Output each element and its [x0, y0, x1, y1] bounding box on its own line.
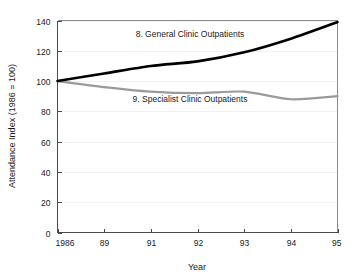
y-tick-label-100: 100 [36, 77, 50, 87]
x-tick-label-95: 95 [332, 238, 342, 248]
x-tick-label-92: 92 [194, 238, 204, 248]
chart-background [0, 0, 356, 278]
x-tick-label-91: 91 [147, 238, 157, 248]
y-tick-label-20: 20 [41, 198, 51, 208]
y-tick-label-60: 60 [41, 138, 51, 148]
y-tick-label-40: 40 [41, 168, 51, 178]
x-axis-title: Year [188, 262, 206, 272]
y-tick-label-120: 120 [36, 47, 50, 57]
y-tick-label-80: 80 [41, 107, 51, 117]
x-tick-label-93: 93 [240, 238, 250, 248]
y-axis-title: Attendance Index (1986 = 100) [7, 64, 17, 188]
x-tick-label-1986: 1986 [56, 238, 75, 248]
chart-container: 020406080100120140 1986899192939495 Atte… [0, 0, 356, 278]
y-tick-label-0: 0 [46, 229, 51, 239]
series-label-specialist-clinic: 9. Specialist Clinic Outpatients [133, 94, 248, 104]
x-tick-label-89: 89 [100, 238, 110, 248]
x-tick-label-94: 94 [287, 238, 297, 248]
line-chart-plot: 020406080100120140 1986899192939495 Atte… [0, 0, 356, 278]
series-label-general-clinic: 8. General Clinic Outpatients [136, 29, 245, 39]
y-tick-label-140: 140 [36, 17, 50, 27]
